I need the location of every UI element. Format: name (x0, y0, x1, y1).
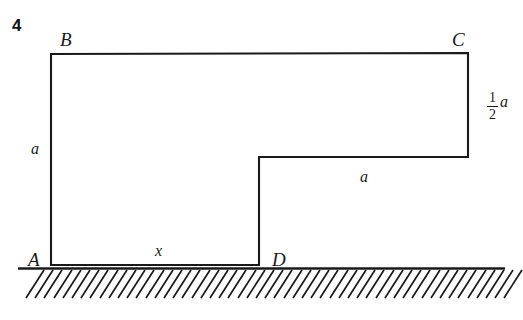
vertex-label-b: B (60, 30, 72, 49)
ground-hatching (26, 270, 522, 298)
vertex-label-d: D (272, 250, 286, 269)
dimension-label-side-x-bottom: x (155, 243, 162, 259)
fraction-denominator: 2 (488, 107, 497, 122)
fraction-one-half: 1 2 (487, 91, 498, 122)
dimension-label-side-a-step: a (360, 169, 368, 185)
vertex-label-a: A (28, 250, 40, 269)
fraction-variable: a (500, 91, 508, 110)
dimension-label-half-a-right: 1 2 a (487, 91, 508, 122)
figure-canvas (0, 0, 523, 320)
dimension-label-side-a-left: a (31, 141, 39, 157)
l-shape-outline (51, 53, 468, 265)
vertex-label-c: C (452, 30, 465, 49)
geometry-figure: 4 B C A D a x a 1 2 a (0, 0, 523, 320)
fraction-numerator: 1 (488, 91, 497, 106)
problem-number: 4 (12, 17, 21, 34)
